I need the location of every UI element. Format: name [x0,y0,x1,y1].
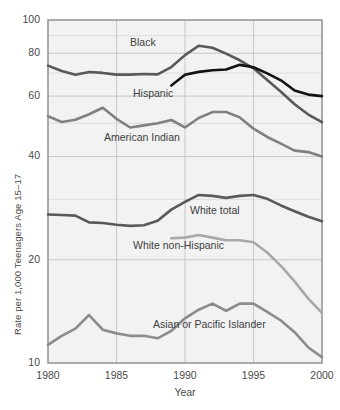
x-tick-1990: 1990 [165,369,205,381]
x-axis-label: Year [155,386,215,398]
series-label-0: Black [130,36,156,48]
x-tick-1980: 1980 [28,369,68,381]
series-label-5: Asian or Pacific Islander [153,318,266,330]
x-tick-2000: 2000 [302,369,340,381]
series-label-1: Hispanic [133,87,173,99]
series-label-2: American Indian [104,131,180,143]
series-label-4: White non-Hispanic [133,239,224,251]
x-tick-1995: 1995 [234,369,274,381]
x-tick-1985: 1985 [97,369,137,381]
y-tick-100: 100 [12,13,40,25]
chart-plot-area [0,0,340,410]
teen-birth-rate-line-chart: Rate per 1,000 Teenagers Age 15–17 Year … [0,0,340,410]
y-tick-60: 60 [12,89,40,101]
series-label-3: White total [190,204,240,216]
y-tick-10: 10 [12,356,40,368]
y-tick-20: 20 [12,253,40,265]
y-tick-40: 40 [12,149,40,161]
y-tick-80: 80 [12,46,40,58]
